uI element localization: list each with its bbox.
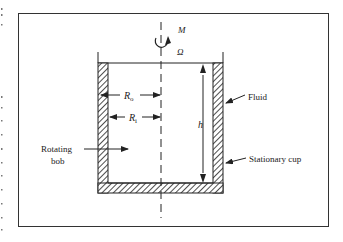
stationary-cup-label: Stationary cup — [249, 154, 302, 164]
stationary-cup-pointer — [226, 158, 246, 163]
fluid-label: Fluid — [248, 92, 268, 102]
viscometer-diagram: M Ω Ro Ri h Fluid Stationary cup Rotatin… — [0, 0, 343, 242]
rotation-arrow-icon — [155, 36, 171, 47]
rotating-bob-label-line2: bob — [51, 156, 65, 166]
fluid-pointer — [226, 95, 245, 103]
moment-label: M — [177, 25, 186, 35]
outer-radius-label: Ro — [123, 90, 134, 103]
height-label: h — [198, 119, 203, 130]
rotating-bob-label-line1: Rotating — [41, 144, 72, 154]
inner-radius-label: Ri — [128, 112, 137, 125]
figure-page: M Ω Ro Ri h Fluid Stationary cup Rotatin… — [0, 0, 343, 242]
margin-marks — [1, 8, 3, 231]
angular-velocity-label: Ω — [177, 47, 184, 57]
